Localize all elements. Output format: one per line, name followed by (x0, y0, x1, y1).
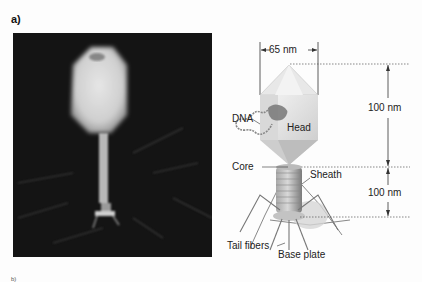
label-base-plate: Base plate (278, 249, 325, 260)
next-panel-label: b) (11, 276, 16, 282)
phage-diagram: 65 nm DNA Head 100 nm Core Sheath 100 nm… (230, 20, 422, 260)
micrograph (13, 33, 212, 257)
label-tail-fibers: Tail fibers (227, 240, 269, 251)
label-sheath: Sheath (310, 169, 342, 180)
label-head: Head (287, 122, 311, 133)
label-core: Core (232, 161, 254, 172)
panel-label: a) (11, 13, 21, 25)
phage-micrograph-image (13, 33, 212, 257)
label-tail-height: 100 nm (368, 187, 401, 198)
label-head-height: 100 nm (368, 102, 401, 113)
label-dna: DNA (232, 113, 253, 124)
phage-illustration (230, 20, 422, 260)
label-width: 65 nm (269, 44, 297, 55)
